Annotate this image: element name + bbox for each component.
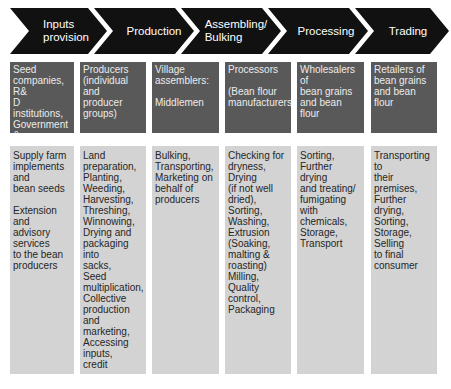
stage-label: Production [118,8,190,54]
stage-label: Processing [290,8,362,54]
stage-label: Assembling/ Bulking [200,8,272,54]
stage-label: Inputs provision [36,8,96,54]
actor-box: Retailers of bean grains and bean flour [371,62,437,133]
actor-box: Seed companies, R& D institutions, Gover… [10,62,74,133]
actor-box: Processors (Bean flour manufacturers) [225,62,291,133]
activity-box: Land preparation, Planting, Weeding, Har… [80,146,146,374]
actor-box: Village assemblers: Middlemen [152,62,219,133]
activity-box: Sorting, Further drying and treating/ fu… [297,146,364,374]
activity-box: Bulking, Transporting, Marketing on beha… [152,146,219,374]
actor-box: Wholesalers of bean grains and bean flou… [297,62,364,133]
stage-label: Trading [378,8,438,54]
actor-box: Producers (individual and producer group… [80,62,146,133]
value-chain-stages: Inputs provision Production Assembling/ … [0,8,451,54]
activity-box: Supply farm implements and bean seeds Ex… [10,146,74,374]
activity-box: Checking for dryness, Drying (if not wel… [225,146,291,374]
activity-box: Transporting to their premises, Further … [371,146,437,374]
